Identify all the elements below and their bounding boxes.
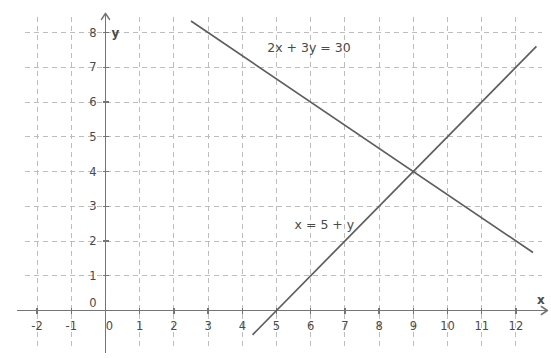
x-tick-label: 8: [375, 319, 382, 333]
y-tick-label: 1: [89, 269, 96, 283]
x-axis-tick-labels: -2-10123456789101112: [31, 319, 523, 333]
vertical-gridlines: [37, 17, 516, 347]
x-tick-label: 6: [307, 319, 314, 333]
y-axis-tick-labels: 012345678: [89, 26, 96, 310]
x-tick-label: 12: [509, 319, 524, 333]
x-tick-label: -1: [66, 319, 77, 333]
horizontal-gridlines: [25, 33, 541, 276]
x-tick-label: 11: [474, 319, 489, 333]
x-tick-label: 2: [170, 319, 177, 333]
x-tick-label: -2: [31, 319, 42, 333]
x-tick-label: 0: [106, 319, 113, 333]
y-tick-label: 6: [89, 95, 96, 109]
y-tick-label: 7: [89, 60, 96, 74]
x-tick-label: 3: [204, 319, 211, 333]
x-tick-label: 1: [136, 319, 143, 333]
x-tick-label: 9: [410, 319, 417, 333]
data-series-lines: [191, 21, 536, 335]
y-tick-label: 8: [89, 26, 96, 40]
equation-annotation: x = 5 + y: [295, 217, 355, 232]
x-tick-label: 10: [440, 319, 455, 333]
x-axis-label: x: [537, 293, 545, 307]
plot-area: -2-10123456789101112 012345678 2x + 3y =…: [0, 0, 551, 358]
x-tick-label: 5: [273, 319, 280, 333]
equation-annotation: 2x + 3y = 30: [267, 40, 350, 55]
y-axis-label: y: [112, 26, 120, 40]
y-tick-label: 4: [89, 165, 96, 179]
y-tick-label: 5: [89, 130, 96, 144]
axes: [17, 13, 547, 353]
x-tick-label: 4: [239, 319, 246, 333]
series-line: [253, 46, 537, 334]
y-tick-label: 2: [89, 234, 96, 248]
x-tick-label: 7: [341, 319, 348, 333]
y-tick-label: 0: [89, 296, 96, 310]
y-tick-label: 3: [89, 199, 96, 213]
coordinate-plane-chart: -2-10123456789101112 012345678 2x + 3y =…: [0, 0, 551, 358]
